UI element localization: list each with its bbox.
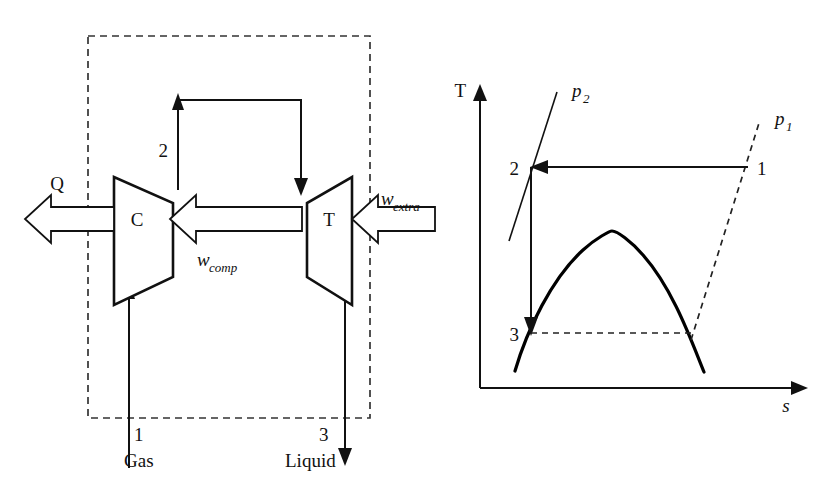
interstage-state-label: 2 (159, 140, 169, 161)
isobar-p1-line (691, 120, 760, 340)
compressor-label: C (131, 209, 144, 230)
figure-canvas: C T Q w comp w extra 2 1 Gas 3 Liquid T … (0, 0, 834, 487)
temperature-axis-label: T (454, 80, 466, 101)
isobar-p1-label: p 1 (773, 108, 793, 134)
heat-output-block-arrow (25, 195, 114, 243)
isobar-p2-symbol: p (570, 80, 582, 101)
ts-point-3-label: 3 (510, 324, 520, 345)
compressor-body[interactable] (114, 177, 173, 305)
outlet-phase-label: Liquid (285, 450, 336, 471)
turbine-body[interactable] (307, 177, 352, 305)
schematic-group: C T Q w comp w extra 2 1 Gas 3 Liquid (25, 36, 435, 471)
saturation-dome-curve (515, 231, 704, 372)
interstage-down-arrowhead-icon (294, 178, 308, 196)
isobar-p2-subscript: 2 (583, 91, 590, 106)
isobar-p1-symbol: p (773, 108, 785, 129)
isobar-p1-subscript: 1 (786, 119, 793, 134)
turbine-label: T (323, 209, 335, 230)
outlet-arrowhead-icon (338, 448, 352, 466)
ts-diagram-group: T s p 2 p 1 2 1 3 (454, 80, 808, 416)
ts-point-1-label: 1 (757, 158, 767, 179)
inlet-state-label: 1 (134, 424, 144, 445)
ts-point-2-label: 2 (510, 158, 520, 179)
entropy-axis-arrowhead-icon (791, 381, 808, 395)
work-compressor-label: w comp (197, 249, 238, 275)
figure-root: C T Q w comp w extra 2 1 Gas 3 Liquid T … (0, 0, 834, 487)
entropy-axis-label: s (782, 395, 789, 416)
work-extra-subscript: extra (393, 199, 420, 214)
temperature-axis-arrowhead-icon (473, 84, 487, 101)
outlet-state-label: 3 (319, 424, 329, 445)
interstage-up-arrowhead-icon (172, 93, 184, 110)
inlet-phase-label: Gas (124, 450, 154, 471)
process-1-to-2-arrowhead-icon (530, 160, 548, 174)
work-compressor-block-arrow (170, 195, 302, 243)
work-compressor-subscript: comp (209, 260, 238, 275)
isobar-p2-label: p 2 (570, 80, 590, 106)
heat-output-label: Q (50, 173, 64, 194)
